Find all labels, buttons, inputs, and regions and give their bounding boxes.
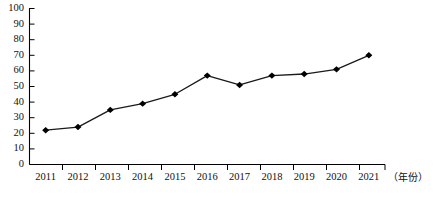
- y-tick-label-50: 50: [2, 81, 24, 92]
- x-tick-label-2016: 2016: [190, 172, 224, 183]
- x-tick-label-2015: 2015: [158, 172, 192, 183]
- y-tick-label-20: 20: [2, 128, 24, 139]
- data-point-2011: [42, 127, 49, 133]
- data-point-markers: [42, 52, 372, 133]
- y-tick-label-80: 80: [2, 34, 24, 45]
- data-point-2018: [268, 72, 275, 78]
- data-point-2013: [107, 107, 114, 113]
- y-tick-label-0: 0: [2, 159, 24, 170]
- data-point-2015: [171, 91, 178, 97]
- data-series-line: [46, 55, 369, 130]
- data-point-2021: [365, 52, 372, 58]
- y-tick-label-40: 40: [2, 97, 24, 108]
- x-tick-label-2014: 2014: [126, 172, 160, 183]
- x-tick-label-2018: 2018: [255, 172, 289, 183]
- y-tick-label-70: 70: [2, 50, 24, 61]
- x-tick-label-2011: 2011: [29, 172, 63, 183]
- y-tick-label-60: 60: [2, 65, 24, 76]
- x-tick-label-2013: 2013: [93, 172, 127, 183]
- data-point-2016: [204, 72, 211, 78]
- y-tick-label-90: 90: [2, 19, 24, 30]
- x-tick-label-2019: 2019: [287, 172, 321, 183]
- x-tick-label-2017: 2017: [223, 172, 257, 183]
- x-tick-label-2021: 2021: [352, 172, 386, 183]
- line-chart: 0102030405060708090100 20112012201320142…: [0, 0, 434, 200]
- x-tick-label-2020: 2020: [320, 172, 354, 183]
- x-axis-title: （年份）: [388, 173, 428, 183]
- x-tick-label-2012: 2012: [61, 172, 95, 183]
- data-point-2017: [236, 82, 243, 88]
- data-point-2020: [333, 66, 340, 72]
- y-tick-label-10: 10: [2, 143, 24, 154]
- chart-plot-area: [0, 0, 434, 200]
- y-axis-ticks: [30, 9, 35, 165]
- data-point-2012: [74, 124, 81, 130]
- x-axis-ticks: [63, 165, 386, 171]
- y-tick-label-30: 30: [2, 112, 24, 123]
- data-point-2014: [139, 100, 146, 106]
- y-tick-label-100: 100: [2, 3, 24, 14]
- data-point-2019: [301, 71, 308, 77]
